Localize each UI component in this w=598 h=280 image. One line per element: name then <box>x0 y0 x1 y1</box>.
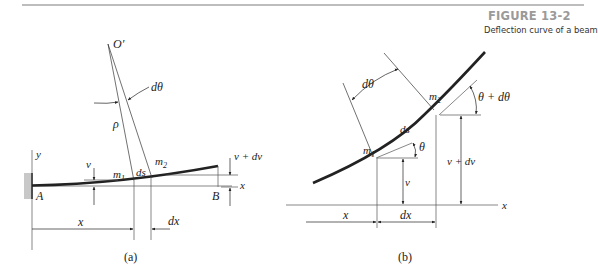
v-plus-dv-label-b: v + dv <box>447 155 475 167</box>
dx-dimension-label-b: dx <box>400 208 412 222</box>
v-label-b: v <box>405 176 410 188</box>
deflected-beam <box>32 166 218 186</box>
normal-line-m2 <box>384 53 434 110</box>
point-b-label: B <box>212 189 220 203</box>
theta-label: θ <box>419 140 425 154</box>
dx-dimension-label: dx <box>168 214 180 228</box>
m2-label: m2 <box>155 155 167 170</box>
dtheta-label-b: dθ <box>362 77 374 91</box>
panel-b: dθ m1 m2 ds θ θ + dθ x v v + dv x dx (b) <box>286 52 510 264</box>
rho-label: ρ <box>112 117 119 131</box>
ds-label: ds <box>136 166 146 178</box>
y-axis-label: y <box>35 148 41 160</box>
radius-line-m2 <box>108 44 152 178</box>
radius-line-m1 <box>108 44 134 181</box>
point-a-label: A <box>35 189 44 203</box>
fixed-support <box>24 173 31 199</box>
x-dimension-label-b: x <box>342 208 349 222</box>
ds-label-b: ds <box>400 123 410 135</box>
panel-a-caption: (a) <box>124 250 137 264</box>
dtheta-label: dθ <box>151 80 163 94</box>
v-plus-dv-label: v + dv <box>234 150 262 162</box>
theta-plus-dtheta-label: θ + dθ <box>478 90 510 104</box>
v-label: v <box>86 158 91 170</box>
panel-a: y x v m1 ds m2 O′ ρ dθ x dx <box>24 37 262 264</box>
x-axis-label: x <box>239 179 245 191</box>
panel-b-caption: (b) <box>398 250 412 264</box>
center-of-curvature-label: O′ <box>113 37 125 51</box>
x-dimension-label: x <box>77 215 84 229</box>
x-axis-label-b: x <box>501 199 507 211</box>
